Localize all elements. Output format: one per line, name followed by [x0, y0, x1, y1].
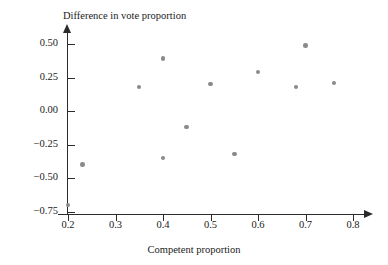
y-tick-label: 0.25: [18, 71, 58, 82]
data-point: [66, 203, 71, 208]
x-tick-label: 0.4: [143, 219, 183, 230]
scatter-plot-figure: Difference in vote proportion 0.500.250.…: [0, 0, 388, 265]
y-tick-label: −0.75: [18, 205, 58, 216]
x-tick-label: 0.2: [48, 219, 88, 230]
x-tick-label: 0.5: [191, 219, 231, 230]
data-point: [294, 85, 299, 90]
y-tick-label: 0.50: [18, 37, 58, 48]
y-axis-line: [67, 32, 68, 215]
y-tick-mark: [68, 178, 75, 179]
data-point: [184, 125, 189, 130]
data-point: [80, 162, 85, 167]
data-point: [161, 56, 166, 61]
data-point: [332, 81, 337, 86]
y-tick-mark: [68, 212, 75, 213]
y-axis-arrow-icon: [63, 24, 71, 33]
data-point: [232, 152, 237, 157]
x-tick-label: 0.6: [238, 219, 278, 230]
y-tick-mark: [68, 111, 75, 112]
data-point: [256, 70, 261, 75]
y-tick-label: −0.50: [18, 171, 58, 182]
y-tick-mark: [68, 44, 75, 45]
x-tick-label: 0.7: [286, 219, 326, 230]
data-point: [161, 156, 166, 161]
y-tick-label: −0.25: [18, 138, 58, 149]
y-tick-label: 0.00: [18, 104, 58, 115]
x-tick-label: 0.8: [333, 219, 373, 230]
x-axis-line: [58, 214, 366, 215]
data-point: [137, 85, 142, 90]
x-axis-title: Competent proportion: [0, 244, 388, 255]
y-tick-mark: [68, 78, 75, 79]
x-tick-label: 0.3: [96, 219, 136, 230]
data-point: [303, 43, 308, 48]
data-point: [208, 82, 213, 87]
y-axis-title: Difference in vote proportion: [63, 10, 186, 21]
x-axis-arrow-icon: [364, 210, 373, 218]
y-tick-mark: [68, 145, 75, 146]
